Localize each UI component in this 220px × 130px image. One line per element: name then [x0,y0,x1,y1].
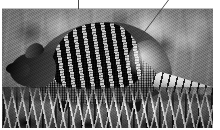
image-canvas: An armadillo with a banded armored shell… [0,0,220,130]
grass-blades [2,85,213,128]
armadillo-photograph [2,9,213,128]
photograph-frame [2,8,213,128]
